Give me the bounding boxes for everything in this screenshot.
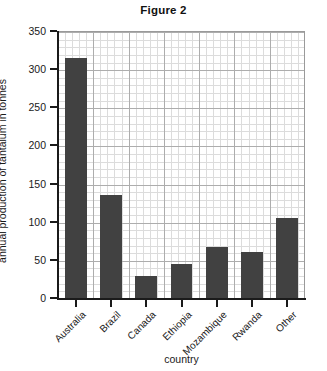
x-axis-tick-label: Ethiopia (160, 309, 193, 342)
y-axis-tick (50, 297, 57, 299)
y-axis-tick (50, 221, 57, 223)
x-axis-tick-label: Brazil (97, 309, 122, 334)
y-axis-tick-label: 350 (28, 25, 46, 37)
x-axis-title: country (58, 353, 305, 365)
y-axis-tick-label: 100 (28, 216, 46, 228)
y-axis-tick-label: 0 (40, 292, 46, 304)
x-axis-tick (75, 300, 77, 307)
x-axis-tick-label: Canada (125, 309, 158, 342)
chart-figure: Figure 2 050100150200250300350 Australia… (0, 0, 327, 371)
y-axis-tick (50, 259, 57, 261)
x-axis-tick-label: Rwanda (230, 309, 264, 343)
x-axis-tick-label: Australia (52, 309, 87, 344)
y-axis-tick-label: 200 (28, 139, 46, 151)
y-axis-tick-label: 300 (28, 63, 46, 75)
y-axis-tick (50, 183, 57, 185)
y-axis-tick (50, 106, 57, 108)
x-axis-tick (145, 300, 147, 307)
y-axis-tick (50, 144, 57, 146)
x-axis-tick (181, 300, 183, 307)
y-axis-tick-label: 250 (28, 101, 46, 113)
y-axis-tick-label: 50 (34, 254, 46, 266)
x-axis-tick (216, 300, 218, 307)
plot-area (58, 31, 305, 298)
x-axis-tick-label: Other (274, 309, 299, 334)
x-axis-tick (251, 300, 253, 307)
chart-title: Figure 2 (0, 4, 327, 16)
y-axis-tick (50, 30, 57, 32)
y-axis-title: annual production of tantalum in tonnes (0, 79, 8, 263)
x-axis-tick (286, 300, 288, 307)
y-axis-tick-label: 150 (28, 178, 46, 190)
y-axis-line (57, 31, 59, 299)
x-axis-tick (110, 300, 112, 307)
y-axis-tick (50, 68, 57, 70)
